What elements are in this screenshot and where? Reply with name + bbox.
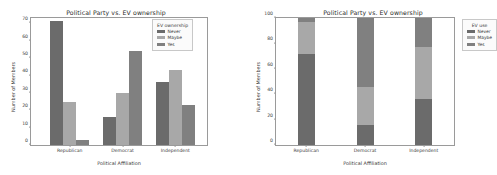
legend-item-yes: Yes bbox=[157, 42, 188, 47]
legend-stacked: EV use Never Maybe Yes bbox=[462, 19, 497, 51]
stack-segment-yes bbox=[357, 18, 374, 87]
panel-grouped: Political Party vs. EV ownership Number … bbox=[0, 0, 243, 175]
y-tick-mark bbox=[274, 144, 276, 145]
y-tick-mark bbox=[29, 109, 31, 110]
stack-segment-yes bbox=[415, 18, 432, 47]
y-tick-label: 50 bbox=[22, 51, 31, 56]
y-tick-label: 0 bbox=[25, 138, 31, 143]
legend-label-maybe: Maybe bbox=[168, 35, 183, 40]
bar-never bbox=[50, 21, 63, 145]
y-tick-mark bbox=[29, 39, 31, 40]
legend-swatch-maybe bbox=[467, 36, 475, 39]
legend-label-yes: Yes bbox=[478, 42, 485, 47]
x-axis-label-stacked: Political Affiliation bbox=[275, 160, 455, 166]
legend-title-grouped: EV ownership bbox=[157, 23, 188, 28]
y-tick-label: 20 bbox=[22, 103, 31, 108]
y-tick-label: 40 bbox=[22, 68, 31, 73]
legend-swatch-maybe bbox=[157, 36, 165, 39]
y-tick-label: 80 bbox=[267, 36, 276, 41]
legend-label-never: Never bbox=[478, 29, 491, 34]
x-tick-mark bbox=[365, 145, 366, 147]
legend-label-never: Never bbox=[168, 29, 181, 34]
y-tick-label: 40 bbox=[267, 87, 276, 92]
plot-area-stacked: 020406080100RepublicanDemocratIndependen… bbox=[275, 17, 455, 146]
y-tick-label: 60 bbox=[267, 61, 276, 66]
y-tick-label: 10 bbox=[22, 120, 31, 125]
y-tick-label: 60 bbox=[22, 33, 31, 38]
legend-swatch-yes bbox=[157, 43, 165, 46]
y-tick-mark bbox=[29, 92, 31, 93]
stack-segment-never bbox=[357, 125, 374, 145]
stacked-bar-container bbox=[276, 18, 454, 145]
legend-title-stacked: EV use bbox=[467, 23, 492, 28]
stack-segment-maybe bbox=[357, 87, 374, 125]
x-tick-label: Independent bbox=[161, 148, 190, 153]
legend-item-maybe: Maybe bbox=[467, 35, 492, 40]
y-tick-label: 30 bbox=[22, 85, 31, 90]
x-tick-label: Democrat bbox=[111, 148, 134, 153]
stack-segment-never bbox=[415, 99, 432, 145]
y-tick-mark bbox=[29, 74, 31, 75]
chart-title-grouped: Political Party vs. EV ownership bbox=[36, 9, 196, 16]
legend-item-never: Never bbox=[157, 29, 188, 34]
y-tick-mark bbox=[274, 42, 276, 43]
bar-maybe bbox=[116, 93, 129, 145]
legend-label-maybe: Maybe bbox=[478, 35, 493, 40]
y-tick-label: 70 bbox=[22, 16, 31, 21]
legend-item-yes: Yes bbox=[467, 42, 492, 47]
legend-grouped: EV ownership Never Maybe Yes bbox=[152, 19, 193, 51]
stacked-bar bbox=[415, 18, 432, 145]
y-tick-mark bbox=[29, 126, 31, 127]
y-tick-mark bbox=[274, 17, 276, 18]
y-axis-label-stacked: Number of Members bbox=[255, 62, 261, 112]
bar-yes bbox=[129, 51, 142, 145]
x-tick-label: Republican bbox=[57, 148, 82, 153]
x-tick-mark bbox=[122, 145, 123, 147]
y-tick-mark bbox=[274, 118, 276, 119]
y-tick-mark bbox=[274, 93, 276, 94]
stack-segment-maybe bbox=[298, 22, 315, 54]
legend-swatch-never bbox=[157, 30, 165, 33]
stacked-bar bbox=[357, 18, 374, 145]
bar-group bbox=[103, 18, 143, 145]
bar-maybe bbox=[63, 102, 76, 145]
y-tick-mark bbox=[274, 68, 276, 69]
bar-never bbox=[103, 117, 116, 145]
legend-label-yes: Yes bbox=[168, 42, 175, 47]
legend-swatch-never bbox=[467, 30, 475, 33]
chart-title-stacked: Political Party vs. EV ownership bbox=[288, 9, 458, 16]
y-tick-label: 100 bbox=[264, 11, 276, 16]
x-tick-label: Republican bbox=[294, 148, 319, 153]
x-tick-label: Democrat bbox=[354, 148, 377, 153]
y-tick-mark bbox=[29, 144, 31, 145]
bar-never bbox=[156, 82, 169, 145]
y-tick-label: 20 bbox=[267, 112, 276, 117]
stack-segment-maybe bbox=[415, 47, 432, 99]
bar-yes bbox=[76, 140, 89, 145]
bar-yes bbox=[182, 105, 195, 145]
y-tick-label: 0 bbox=[270, 138, 276, 143]
bar-maybe bbox=[169, 70, 182, 145]
y-tick-mark bbox=[29, 57, 31, 58]
legend-swatch-yes bbox=[467, 43, 475, 46]
x-tick-label: Independent bbox=[409, 148, 438, 153]
panel-stacked: Political Party vs. EV ownership Number … bbox=[244, 0, 487, 175]
stacked-bar bbox=[298, 18, 315, 145]
x-tick-mark bbox=[175, 145, 176, 147]
legend-item-never: Never bbox=[467, 29, 492, 34]
y-tick-mark bbox=[29, 22, 31, 23]
y-axis-label-grouped: Number of Members bbox=[10, 62, 16, 112]
x-tick-mark bbox=[69, 145, 70, 147]
bar-group bbox=[50, 18, 90, 145]
x-tick-mark bbox=[423, 145, 424, 147]
legend-item-maybe: Maybe bbox=[157, 35, 188, 40]
x-axis-label-grouped: Political Affiliation bbox=[30, 160, 208, 166]
x-tick-mark bbox=[306, 145, 307, 147]
stack-segment-never bbox=[298, 54, 315, 145]
